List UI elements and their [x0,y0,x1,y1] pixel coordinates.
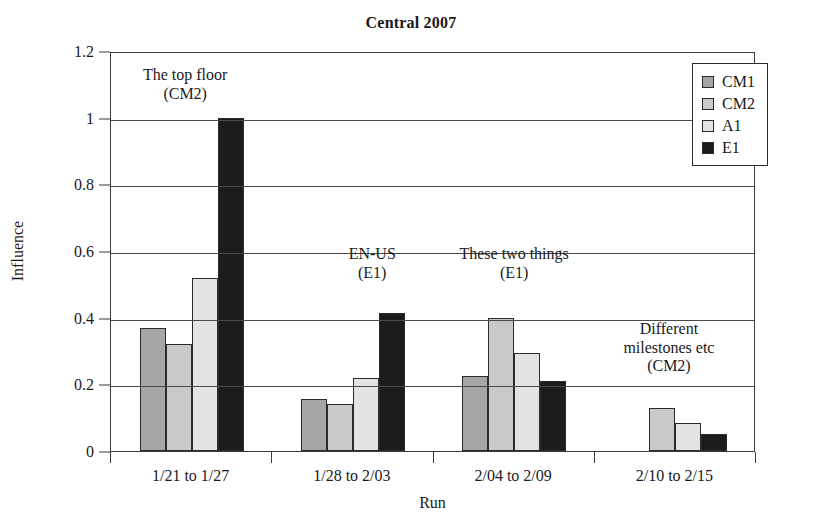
x-tick-mark [594,452,595,463]
bar-cm2-0[interactable] [166,344,192,451]
bar-e1-3[interactable] [701,434,727,451]
y-tick-label: 0.6 [74,243,94,261]
chart-title: Central 2007 [0,14,822,32]
legend-swatch-icon [702,142,714,154]
chart-root: Central 2007 Influence 00.20.40.60.811.2… [0,0,822,523]
x-tick-label: 2/04 to 2/09 [474,467,551,485]
chart-legend: CM1CM2A1E1 [692,63,768,166]
y-tick-label: 0.4 [74,310,94,328]
legend-swatch-icon [702,76,714,88]
y-tick-label: 1.2 [74,43,94,61]
x-tick-label: 2/10 to 2/15 [636,467,713,485]
y-axis-title: Influence [9,171,27,331]
legend-item-e1[interactable]: E1 [702,140,755,156]
y-tick-mark [99,185,110,186]
bar-e1-2[interactable] [540,381,566,451]
legend-swatch-icon [702,98,714,110]
bar-a1-3[interactable] [675,423,701,451]
x-tick-mark [755,452,756,463]
legend-item-label: CM1 [722,74,755,90]
gridline [111,320,754,321]
plot-area: The top floor(CM2)EN-US(E1)These two thi… [110,52,755,452]
bar-cm2-2[interactable] [488,318,514,451]
y-tick-mark [99,52,110,53]
y-tick-label: 1 [86,110,94,128]
x-tick-label: 1/21 to 1/27 [152,467,229,485]
y-tick-mark [99,452,110,453]
legend-item-label: E1 [722,140,740,156]
bars-layer [111,53,754,451]
legend-swatch-icon [702,120,714,132]
legend-item-label: CM2 [722,96,755,112]
bar-cm1-0[interactable] [140,328,166,451]
gridline [111,120,754,121]
gridline [111,386,754,387]
x-axis-title: Run [110,494,755,512]
bar-cm2-3[interactable] [649,408,675,451]
bar-a1-2[interactable] [514,353,540,451]
bar-a1-1[interactable] [353,378,379,451]
gridline [111,253,754,254]
x-tick-mark [433,452,434,463]
bar-e1-1[interactable] [379,313,405,451]
x-tick-mark [110,452,111,463]
legend-item-label: A1 [722,118,742,134]
y-tick-mark [99,385,110,386]
x-tick-mark [271,452,272,463]
bar-cm2-1[interactable] [327,404,353,451]
y-tick-mark [99,318,110,319]
y-axis: Influence 00.20.40.60.811.2 [0,52,110,452]
legend-item-a1[interactable]: A1 [702,118,755,134]
gridline [111,186,754,187]
x-tick-label: 1/28 to 2/03 [313,467,390,485]
legend-item-cm2[interactable]: CM2 [702,96,755,112]
y-tick-label: 0 [86,443,94,461]
bar-a1-0[interactable] [192,278,218,451]
y-tick-label: 0.8 [74,176,94,194]
bar-cm1-1[interactable] [301,399,327,451]
bar-e1-0[interactable] [218,118,244,451]
legend-item-cm1[interactable]: CM1 [702,74,755,90]
x-axis: Run 1/21 to 1/271/28 to 2/032/04 to 2/09… [110,452,755,522]
y-tick-label: 0.2 [74,376,94,394]
y-tick-mark [99,252,110,253]
y-tick-mark [99,118,110,119]
